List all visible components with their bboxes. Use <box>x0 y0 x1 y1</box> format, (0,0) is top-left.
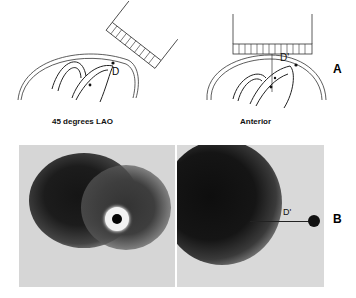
ventricle-blob <box>81 165 171 250</box>
distance-line-d-prime <box>250 221 316 222</box>
ring-source-marker <box>105 207 129 231</box>
ring-source-center <box>112 214 122 224</box>
point-source-marker <box>308 215 320 227</box>
distance-label-d-prime-scan: D' <box>283 207 291 217</box>
panel-label-b: B <box>333 212 342 226</box>
anterior-scintigram-image: D' <box>177 145 324 287</box>
lao-scintigram-image <box>19 145 175 287</box>
heart-blob <box>177 145 282 265</box>
caption-anterior: Anterior <box>240 117 271 126</box>
panel-label-a: A <box>333 62 342 76</box>
distance-label-d-prime: D' <box>280 52 289 63</box>
